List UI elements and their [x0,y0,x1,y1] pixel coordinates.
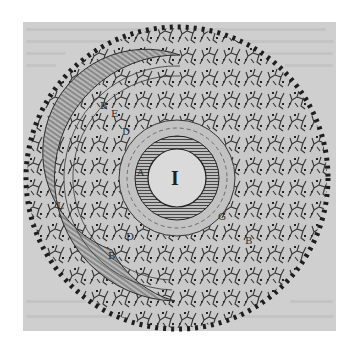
center-numeral: I [171,168,179,188]
